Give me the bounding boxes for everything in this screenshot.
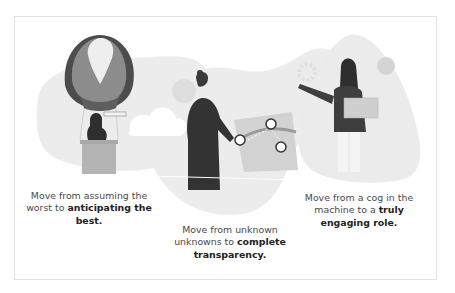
lightbulb-icon	[377, 57, 395, 75]
telescope-icon	[104, 112, 126, 116]
caption-panel-3: Move from a cog in the machine to a trul…	[300, 192, 418, 229]
caption-panel-1: Move from assuming the worst to anticipa…	[23, 190, 155, 227]
map-pin-icon	[235, 135, 245, 145]
map-pin-icon	[266, 119, 276, 129]
map-pin-icon	[276, 142, 286, 152]
caption-panel-2: Move from unknown unknowns to complete t…	[170, 224, 290, 261]
bubble-small	[172, 79, 196, 103]
